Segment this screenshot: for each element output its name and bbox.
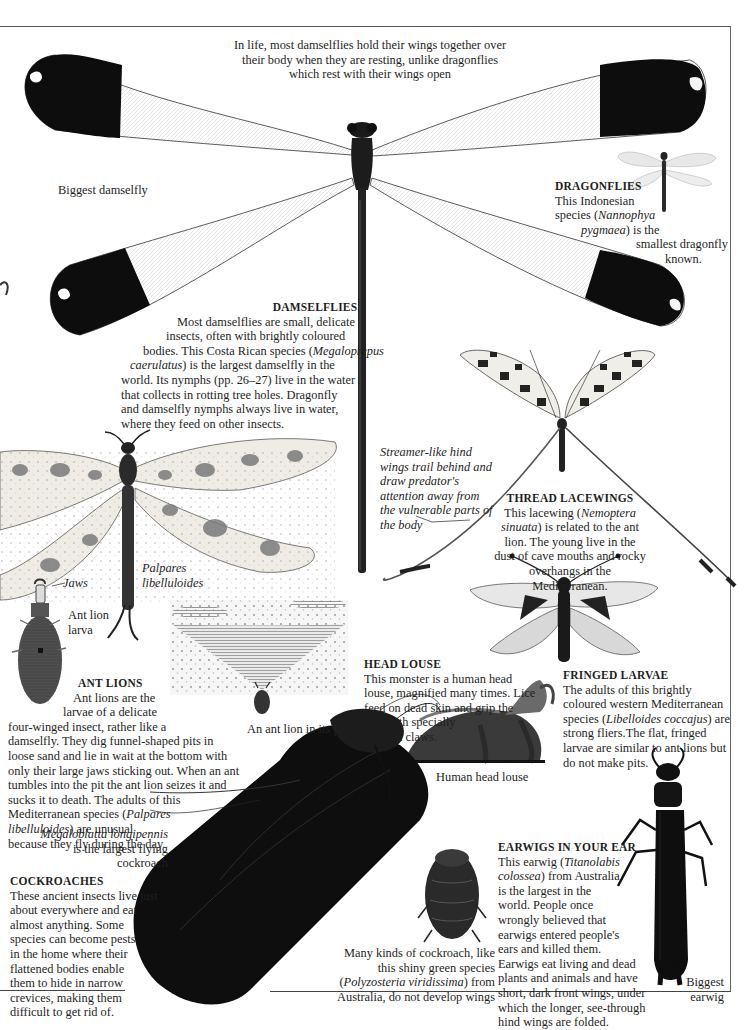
ant-lions-section: ANT LIONS Ant lions are the larvae of a … — [8, 676, 248, 851]
label-human-head-louse: Human head louse — [436, 770, 528, 785]
label-biggest-earwig: Biggest earwig — [672, 975, 724, 1004]
label-biggest-damselfly: Biggest damselfly — [58, 183, 148, 198]
cockroaches-section: COCKROACHES These ancient insects live j… — [10, 874, 185, 1020]
ant-lions-heading: ANT LIONS — [8, 676, 248, 691]
wingless-cockroach-illustration — [418, 849, 486, 942]
thread-lacewings-heading: THREAD LACEWINGS — [485, 491, 655, 506]
label-palpares: Palpares libelluloides — [142, 561, 203, 590]
wingless-cockroach-caption: Many kinds of cockroach, like this shiny… — [330, 946, 495, 1004]
head-louse-section: HEAD LOUSE This monster is a human head … — [364, 657, 534, 745]
dragonflies-section: DRAGONFLIES This Indonesian species (Nan… — [555, 179, 735, 267]
intro-caption: In life, most damselflies hold their win… — [220, 38, 520, 82]
head-louse-heading: HEAD LOUSE — [364, 657, 534, 672]
damselflies-heading: DAMSELFLIES — [160, 300, 430, 315]
earwigs-section: EARWIGS IN YOUR EAR This earwig (Titanol… — [498, 840, 658, 1030]
fringed-larvae-heading: FRINGED LARVAE — [563, 668, 733, 683]
damselflies-section: DAMSELFLIES Most damselflies are small, … — [160, 300, 430, 431]
label-ant-lion-larva: Ant lion larva — [68, 608, 109, 637]
label-megaloblatta: Megaloblatta longipennis is the largest … — [40, 827, 168, 871]
label-jaws: Jaws — [63, 576, 88, 591]
fringed-larvae-section: FRINGED LARVAE The adults of this bright… — [563, 668, 733, 770]
cockroaches-heading: COCKROACHES — [10, 874, 185, 889]
thread-lacewings-section: THREAD LACEWINGS This lacewing (Nemopter… — [485, 491, 655, 593]
earwigs-heading: EARWIGS IN YOUR EAR — [498, 840, 658, 855]
label-ant-lion-pit: An ant lion in its pit — [247, 722, 346, 737]
dragonflies-heading: DRAGONFLIES — [555, 179, 735, 194]
